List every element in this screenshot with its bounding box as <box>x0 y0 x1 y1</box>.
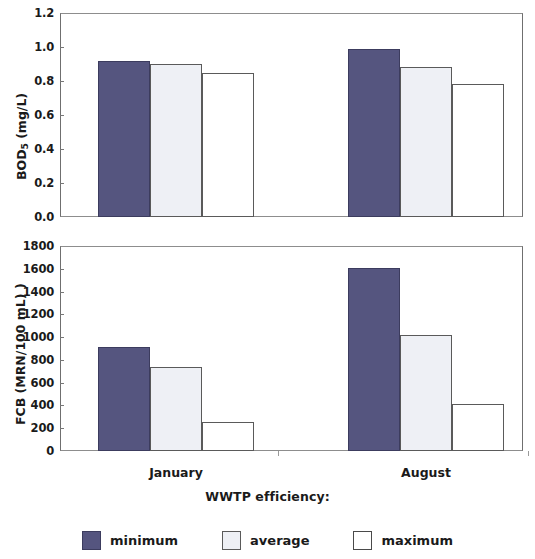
y-tick-mark <box>60 405 64 406</box>
y-tick-mark <box>60 292 64 293</box>
y-tick-label: 1800 <box>23 239 54 253</box>
legend-swatch-maximum <box>353 531 372 550</box>
y-tick-mark <box>60 360 64 361</box>
y-tick-label: 0 <box>46 444 54 458</box>
legend-item-minimum[interactable]: minimum <box>82 531 178 550</box>
y-tick-mark <box>60 269 64 270</box>
y-tick-label: 1600 <box>23 262 54 276</box>
y-axis-title-fcb: FCB (MRN/100 mL) ) <box>13 283 28 425</box>
y-tick-mark <box>60 337 64 338</box>
y-tick-mark <box>60 383 64 384</box>
legend-item-maximum[interactable]: maximum <box>353 531 453 550</box>
figure-two-panel-bar-chart: BOD5 (mg/L) 0.00.20.40.60.81.01.2 FCB (M… <box>0 0 535 559</box>
panel-fcb: FCB (MRN/100 mL) ) 020040060080010001200… <box>0 0 535 460</box>
x-tick-mark <box>278 451 279 456</box>
x-category-label-august: August <box>401 465 451 480</box>
y-tick-label: 800 <box>31 353 54 367</box>
y-tick-label: 1400 <box>23 285 54 299</box>
x-category-label-january: January <box>149 465 203 480</box>
y-tick-mark <box>60 314 64 315</box>
y-tick-label: 1200 <box>23 307 54 321</box>
bar-minimum-january <box>98 347 150 451</box>
bar-average-january <box>150 367 202 451</box>
y-tick-label: 400 <box>31 398 54 412</box>
bar-minimum-august <box>348 268 400 451</box>
y-tick-label: 200 <box>31 421 54 435</box>
legend-swatch-minimum <box>82 531 101 550</box>
bar-maximum-august <box>452 404 504 451</box>
x-tick-mark <box>528 451 529 456</box>
legend-item-average[interactable]: average <box>222 531 309 550</box>
y-tick-label: 600 <box>31 376 54 390</box>
y-tick-mark <box>60 428 64 429</box>
legend-label-maximum: maximum <box>381 533 453 548</box>
legend-label-average: average <box>250 533 309 548</box>
x-axis-title: WWTP efficiency: <box>0 489 535 504</box>
legend: minimumaveragemaximum <box>0 528 535 552</box>
bar-average-august <box>400 335 452 451</box>
legend-label-minimum: minimum <box>110 533 178 548</box>
legend-swatch-average <box>222 531 241 550</box>
bar-maximum-january <box>202 422 254 451</box>
y-tick-label: 1000 <box>23 330 54 344</box>
